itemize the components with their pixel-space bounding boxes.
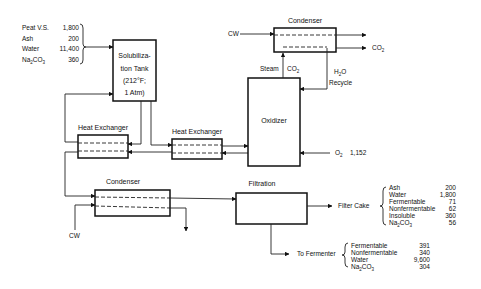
filter-cake-label-3: Nonfermentable (389, 205, 436, 212)
fermenter-brace (342, 243, 348, 267)
fermenter-label-3: Na2CO3 (351, 263, 375, 272)
feed-label-2: Water (22, 45, 40, 52)
filter-cake-value-5: 56 (449, 219, 457, 226)
fermenter-label-1: Nonfermentable (351, 249, 398, 256)
heat-exchanger-2 (172, 139, 222, 159)
fermenter-value-0: 391 (419, 242, 430, 249)
recycle-label: Recycle (329, 79, 353, 87)
fermenter-value-2: 9,600 (414, 256, 431, 263)
tank-label-2: tion Tank (121, 65, 149, 72)
heat-exchanger-1-label: Heat Exchanger (78, 124, 129, 132)
o2-label: O2 (335, 149, 343, 158)
h2o-recycle-line (300, 48, 327, 89)
process-flow-diagram: Peat V.S. 1,800 Ash 200 Water 11,400 Na2… (0, 0, 481, 289)
feed-composition: Peat V.S. 1,800 Ash 200 Water 11,400 Na2… (22, 24, 86, 65)
filter-cake-label: Filter Cake (338, 202, 370, 209)
fermenter-value-3: 304 (419, 263, 430, 270)
o2-value: 1,152 (350, 149, 367, 156)
condenser-top-label: Condenser (288, 17, 323, 24)
feed-label-1: Ash (22, 35, 34, 42)
filter-cake-value-4: 360 (445, 212, 456, 219)
fermenter-label-0: Fermentable (351, 242, 388, 249)
filtration-unit (236, 193, 307, 224)
co2-steam-label: CO2 (287, 65, 300, 74)
feed-label-3: Na2CO3 (22, 56, 46, 65)
cw-bottom-outlet-line (170, 208, 186, 231)
h2o-label: H2O (334, 68, 346, 77)
tank-label-1: Solubiliza- (118, 52, 151, 59)
feed-brace (80, 24, 86, 64)
tank-to-he1-line (128, 101, 141, 144)
cw-bottom-inlet-line (75, 205, 95, 230)
condenser-bottom-label: Condenser (106, 178, 141, 185)
feed-value-2: 11,400 (60, 45, 80, 52)
filter-cake-label-0: Ash (389, 184, 401, 191)
filter-cake-composition: Ash 200 Water 1,800 Fermentable 71 Nonfe… (389, 184, 456, 228)
cw-top-label: CW (228, 30, 240, 37)
co2-out-label: CO2 (372, 44, 385, 53)
tank-to-he2-line (151, 101, 172, 145)
fermenter-composition: Fermentable 391 Nonfermentable 340 Water… (351, 242, 430, 272)
filter-cake-label-1: Water (389, 191, 407, 198)
fermenter-label-2: Water (351, 256, 369, 263)
filter-cake-brace (380, 187, 386, 225)
condenser-bottom (95, 190, 170, 216)
tank-label-4: 1 Atm) (124, 89, 144, 97)
to-fermenter-label: To Fermenter (297, 250, 336, 257)
heat-exchanger-1 (78, 135, 128, 158)
fermenter-value-1: 340 (419, 249, 430, 256)
filter-cake-value-3: 62 (449, 205, 457, 212)
filter-cake-label-4: Insoluble (389, 212, 415, 219)
filter-cake-value-0: 200 (445, 184, 456, 191)
steam-label: Steam (260, 65, 279, 72)
tank-label-3: (212°F; (123, 77, 146, 85)
filtration-label: Filtration (249, 180, 276, 187)
filter-cake-value-2: 71 (449, 198, 457, 205)
filter-cake-label-5: Na2CO3 (389, 219, 413, 228)
oxidizer-label: Oxidizer (261, 117, 287, 124)
feed-value-0: 1,800 (63, 24, 80, 31)
cw-bottom-label: CW (69, 232, 81, 239)
to-fermenter-line (271, 224, 289, 254)
condenser-to-filtration-line (170, 198, 236, 199)
feed-value-3: 360 (68, 56, 79, 63)
filter-cake-label-2: Fermentable (389, 198, 426, 205)
heat-exchanger-2-label: Heat Exchanger (172, 128, 223, 136)
feed-value-1: 200 (68, 35, 79, 42)
feed-label-0: Peat V.S. (22, 24, 49, 31)
filter-cake-value-1: 1,800 (440, 191, 457, 198)
